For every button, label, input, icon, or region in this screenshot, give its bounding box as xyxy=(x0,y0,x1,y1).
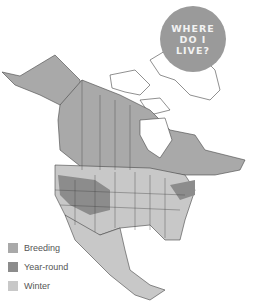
badge-line: DO I xyxy=(180,34,207,45)
badge-line: LIVE? xyxy=(176,45,210,56)
legend-label: Winter xyxy=(24,281,50,291)
legend-item-year-round: Year-round xyxy=(8,257,68,276)
legend-swatch xyxy=(8,243,18,253)
legend-item-breeding: Breeding xyxy=(8,238,68,257)
legend-item-winter: Winter xyxy=(8,276,68,295)
legend-label: Year-round xyxy=(24,262,68,272)
legend-swatch xyxy=(8,262,18,272)
legend: Breeding Year-round Winter xyxy=(8,238,68,295)
badge-line: WHERE xyxy=(171,23,215,34)
legend-label: Breeding xyxy=(24,243,60,253)
where-do-i-live-badge: WHERE DO I LIVE? xyxy=(160,6,226,72)
legend-swatch xyxy=(8,281,18,291)
